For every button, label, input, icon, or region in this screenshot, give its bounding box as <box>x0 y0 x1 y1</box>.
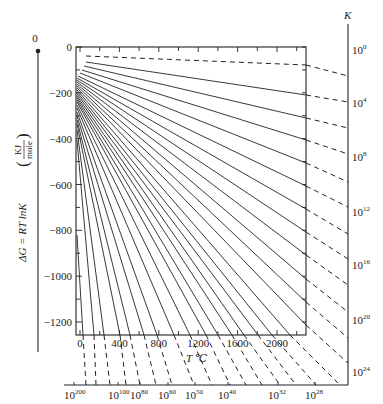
bottom-k-tick-label: 10100 <box>108 388 130 401</box>
bottom-k-tick-label: 1040 <box>218 388 237 401</box>
bottom-k-tick-label: 1028 <box>305 388 324 401</box>
bottom-k-tick-label: 1050 <box>185 388 204 401</box>
x-tick-label: 2000 <box>266 337 289 349</box>
y-tick-label: −200 <box>49 87 72 99</box>
unit-numerator: KJ <box>13 145 23 155</box>
right-k-tick-label: 1024 <box>352 365 371 378</box>
projection-line <box>306 279 348 312</box>
y-axis-title-main: ΔG = RT lnK <box>16 203 28 263</box>
right-k-tick-label: 100 <box>352 43 367 56</box>
projection-line <box>130 335 140 385</box>
y-tick-label: −600 <box>49 179 72 191</box>
reaction-line <box>77 86 306 302</box>
reaction-line <box>86 62 306 95</box>
left-scale-zero-label: 0 <box>32 32 38 44</box>
reaction-line <box>77 235 83 335</box>
x-tick-label: 1200 <box>187 337 210 349</box>
projection-line <box>306 140 348 154</box>
projection-line <box>104 335 110 385</box>
right-k-tick-label: 104 <box>352 96 367 109</box>
projection-line <box>306 95 348 102</box>
projection-line <box>83 335 86 385</box>
projection-line <box>306 232 348 259</box>
y-tick-label: −1000 <box>44 270 73 282</box>
x-axis-ticks: 0400800120016002000 <box>77 47 296 349</box>
reaction-line <box>77 80 306 232</box>
reaction-line <box>82 70 306 140</box>
projection-line <box>306 255 348 285</box>
projection-line <box>290 335 340 385</box>
right-k-axis-title: K <box>343 9 352 21</box>
reaction-line <box>84 66 306 118</box>
y-tick-label: 0 <box>67 41 73 53</box>
x-tick-label: 400 <box>111 337 128 349</box>
reaction-lines <box>77 56 306 335</box>
projection-line <box>272 335 316 385</box>
bottom-k-tick-label: 10200 <box>64 388 86 401</box>
right-k-tick-label: 108 <box>352 150 367 163</box>
x-tick-label: 800 <box>151 337 168 349</box>
bottom-k-tick-label: 1080 <box>130 388 149 401</box>
right-k-ticks: 1001041081012101610201024 <box>352 43 371 378</box>
reaction-line <box>77 84 306 279</box>
y-tick-label: −800 <box>49 224 72 236</box>
bottom-k-tick-label: 1060 <box>158 388 177 401</box>
right-k-tick-label: 1016 <box>352 258 371 271</box>
projection-line <box>306 163 348 182</box>
nomogram-chart: 0 ΔG = RT lnK ( KJ mole ) 0−200−400−600−… <box>0 0 383 404</box>
x-tick-label: 0 <box>77 337 83 349</box>
reaction-line <box>77 124 120 335</box>
y-axis-title: ΔG = RT lnK ( KJ mole ) <box>13 133 34 263</box>
projection-line <box>94 335 96 385</box>
y-tick-label: −1200 <box>44 316 73 328</box>
x-tick-label: 1600 <box>227 337 250 349</box>
reaction-line <box>77 96 244 335</box>
projection-line <box>306 65 348 76</box>
reaction-line <box>77 108 174 335</box>
y-tick-label: −400 <box>49 133 72 145</box>
projection-line <box>306 209 348 234</box>
reaction-line <box>86 56 306 65</box>
projection-line <box>306 186 348 207</box>
projection-line <box>306 118 348 128</box>
x-axis-title: T ℃ <box>186 352 208 364</box>
unit-denominator: mole <box>24 141 34 159</box>
paren-left: ( <box>13 161 32 167</box>
reaction-line <box>77 92 272 335</box>
reaction-line <box>77 98 232 335</box>
right-k-tick-label: 1012 <box>352 205 371 218</box>
paren-right: ) <box>13 133 32 139</box>
right-k-tick-label: 1020 <box>352 313 371 326</box>
bottom-k-tick-label: 1032 <box>268 388 287 401</box>
